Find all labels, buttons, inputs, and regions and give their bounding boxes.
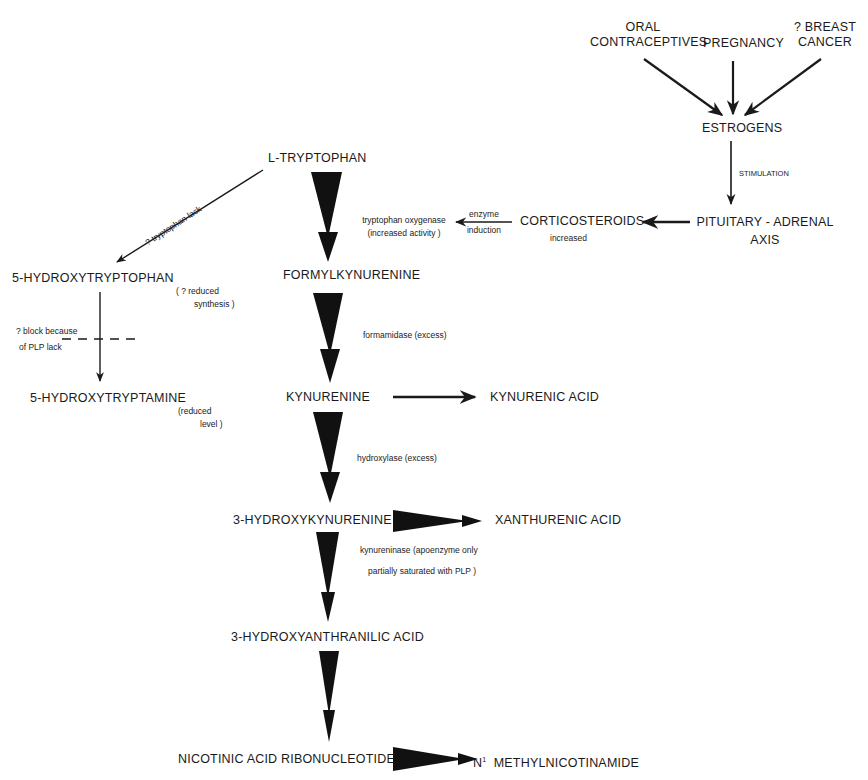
node-5-hydroxytryptophan: 5-HYDROXYTRYPTOPHAN — [12, 271, 174, 286]
wedge-nicotinic-to-methylnicotinamide — [393, 747, 478, 771]
arrow-cancer-to-estrogens — [745, 59, 821, 115]
node-kynurenine: KYNURENINE — [286, 390, 370, 405]
node-nicotinic-acid-ribonucleotide: NICOTINIC ACID RIBONUCLEOTIDE — [178, 752, 395, 767]
methylnicotinamide-text: METHYLNICOTINAMIDE — [494, 756, 639, 770]
node-5-hydroxytryptamine: 5-HYDROXYTRYPTAMINE — [30, 391, 186, 406]
note-line: level ) — [200, 418, 223, 431]
node-label-line: ? BREAST — [790, 20, 860, 35]
note-line: synthesis ) — [194, 298, 235, 311]
label-tryptophan-oxygenase: tryptophan oxygenase (increased activity… — [354, 214, 454, 240]
wedge-hydroxykynurenine-to-xanthurenic — [393, 510, 482, 532]
note-line: induction — [460, 224, 508, 237]
node-corticosteroids: CORTICOSTEROIDS — [520, 214, 644, 229]
node-label-line: ORAL — [590, 20, 696, 35]
node-l-tryptophan: L-TRYPTOPHAN — [268, 151, 367, 166]
node-estrogens: ESTROGENS — [702, 121, 782, 136]
node-label-line: AXIS — [690, 233, 840, 248]
pathway-diagram: ORAL CONTRACEPTIVES PREGNANCY ? BREAST C… — [0, 0, 868, 780]
n-prefix: N — [473, 756, 482, 770]
node-pituitary-adrenal: PITUITARY - ADRENAL AXIS — [690, 215, 840, 248]
note-line: (increased activity ) — [354, 227, 454, 240]
note-line: enzyme — [460, 208, 508, 221]
label-enzyme-induction: enzyme induction — [460, 208, 508, 237]
label-hydroxylase: hydroxylase (excess) — [357, 452, 437, 465]
label-kynureninase: kynureninase (apoenzyme only partially s… — [360, 544, 478, 578]
note-line: kynureninase (apoenzyme only — [360, 544, 478, 557]
note-line: partially saturated with PLP ) — [368, 565, 478, 578]
superscript-1: 1 — [482, 756, 486, 763]
node-oral-contraceptives: ORAL CONTRACEPTIVES — [590, 20, 696, 50]
label-block-plp: ? block because of PLP lack — [16, 325, 77, 354]
label-stimulation: STIMULATION — [739, 167, 789, 180]
label-formamidase: formamidase (excess) — [363, 329, 447, 342]
node-label-line: CANCER — [790, 35, 860, 50]
wedge-tryptophan-to-formylkynurenine — [311, 172, 342, 262]
node-kynurenic-acid: KYNURENIC ACID — [490, 390, 599, 405]
node-3-hydroxyanthranilic-acid: 3-HYDROXYANTHRANILIC ACID — [231, 630, 424, 645]
arrow-oral-to-estrogens — [644, 59, 722, 115]
node-pregnancy: PREGNANCY — [703, 36, 784, 51]
wedge-kynurenine-to-hydroxykynurenine — [313, 412, 343, 503]
arrows-layer — [0, 0, 868, 780]
note-line: tryptophan oxygenase — [354, 214, 454, 227]
note-line: ? block because — [16, 325, 77, 338]
wedge-hydroxykynurenine-to-anthranilic — [316, 532, 339, 622]
note-line: (reduced — [178, 405, 223, 418]
wedge-anthranilic-to-nicotinic — [319, 651, 339, 742]
node-breast-cancer: ? BREAST CANCER — [790, 20, 860, 50]
label-reduced-synthesis: ( ? reduced synthesis ) — [176, 285, 235, 311]
node-n1-methylnicotinamide: N1 METHYLNICOTINAMIDE — [473, 752, 639, 771]
label-reduced-level: (reduced level ) — [178, 405, 223, 431]
label-corticosteroids-increased: increased — [550, 232, 587, 245]
node-xanthurenic-acid: XANTHURENIC ACID — [495, 513, 621, 528]
note-line: of PLP lack — [19, 341, 77, 354]
node-label-line: CONTRACEPTIVES — [590, 35, 696, 50]
wedge-formylkynurenine-to-kynurenine — [313, 293, 343, 383]
note-line: ( ? reduced — [176, 285, 235, 298]
node-3-hydroxykynurenine: 3-HYDROXYKYNURENINE — [233, 513, 392, 528]
node-formylkynurenine: FORMYLKYNURENINE — [283, 268, 420, 283]
node-label-line: PITUITARY - ADRENAL — [690, 215, 840, 230]
